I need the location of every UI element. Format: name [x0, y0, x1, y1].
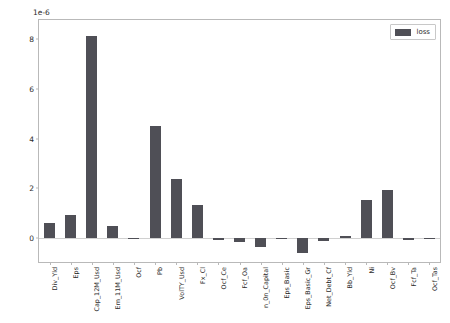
bar [86, 36, 97, 238]
x-axis-tick-mark [50, 262, 51, 265]
x-axis-tick-mark [387, 262, 388, 265]
bar [192, 205, 203, 239]
bar [65, 215, 76, 238]
y-axis-tick-mark [36, 238, 39, 239]
x-axis-tick-mark [345, 262, 346, 265]
x-axis-tick-label: Fx_Cl [200, 267, 206, 284]
x-axis-tick-label: Ocf [136, 267, 142, 278]
x-axis-tick-mark [218, 262, 219, 265]
x-axis-tick-mark [282, 262, 283, 265]
bar [382, 190, 393, 238]
x-axis-tick-label: Div_Yld [52, 267, 58, 290]
y-axis-tick-mark [36, 188, 39, 189]
bar [361, 200, 372, 239]
y-axis-tick-mark [36, 88, 39, 89]
x-axis-tick-label: Ocf_Bv [390, 267, 396, 289]
bar [403, 238, 414, 239]
x-axis-tick-label: Bb_Yld [347, 267, 353, 288]
x-axis-tick-label: Fcf_Ta [411, 267, 417, 286]
y-axis-offset-text: 1e-6 [33, 8, 50, 17]
x-axis-tick-label: Fcf_Oa [242, 267, 248, 289]
x-axis-tick-label: Net_Debt_Cf [326, 267, 332, 307]
x-axis-tick-mark [113, 262, 114, 265]
bar [150, 126, 161, 239]
x-axis-tick-mark [197, 262, 198, 265]
plot-area: 02468Div_YldEpsCap_12M_UsdEm_11M_UsdOcfP… [38, 19, 441, 263]
bars-layer [39, 20, 440, 262]
legend-swatch-loss [395, 29, 411, 36]
x-axis-tick-label: Eps_Basic [284, 267, 290, 299]
bar [44, 223, 55, 238]
x-axis-tick-mark [261, 262, 262, 265]
bar [213, 238, 224, 240]
bar [255, 238, 266, 247]
figure: 1e-6 02468Div_YldEpsCap_12M_UsdEm_11M_Us… [0, 0, 450, 323]
x-axis-tick-label: Eps [73, 267, 79, 278]
x-axis-tick-mark [134, 262, 135, 265]
bar [171, 179, 182, 238]
x-axis-tick-mark [429, 262, 430, 265]
x-axis-tick-mark [155, 262, 156, 265]
x-axis-tick-mark [71, 262, 72, 265]
x-axis-tick-label: n_0n_Capital [263, 267, 269, 308]
x-axis-tick-label: Eps_Basic_Gr [305, 267, 311, 309]
y-axis-tick-mark [36, 138, 39, 139]
x-axis-tick-mark [303, 262, 304, 265]
x-axis-tick-label: Pb [157, 267, 163, 275]
bar [318, 238, 329, 241]
bar [297, 238, 308, 253]
x-axis-tick-mark [176, 262, 177, 265]
x-axis-tick-mark [240, 262, 241, 265]
x-axis-tick-label: Cap_12M_Usd [94, 267, 100, 312]
x-axis-tick-mark [324, 262, 325, 265]
legend: loss [390, 24, 436, 40]
x-axis-tick-label: VolTY_Usd [179, 267, 185, 300]
bar [128, 238, 139, 239]
x-axis-tick-mark [92, 262, 93, 265]
x-axis-tick-label: Em_11M_Usd [115, 267, 121, 309]
x-axis-tick-mark [366, 262, 367, 265]
bar [107, 226, 118, 238]
x-axis-tick-label: Ocf_Tas [432, 267, 438, 291]
bar [340, 236, 351, 238]
legend-label-loss: loss [416, 28, 430, 36]
y-axis-tick-mark [36, 38, 39, 39]
bar [234, 238, 245, 241]
x-axis-tick-label: Ocf_Ce [221, 267, 227, 289]
bar [424, 238, 435, 239]
bar [276, 238, 287, 239]
x-axis-tick-mark [408, 262, 409, 265]
x-axis-tick-label: Ni [369, 267, 375, 274]
